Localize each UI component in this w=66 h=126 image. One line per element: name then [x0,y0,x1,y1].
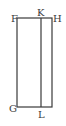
label-f: F [11,13,18,24]
outer-rectangle [17,18,52,107]
label-g: G [9,103,17,114]
label-h: H [53,13,62,24]
label-l: L [38,109,45,120]
label-k: K [37,7,45,18]
rectangle-diagram: F K H G L [0,0,66,126]
